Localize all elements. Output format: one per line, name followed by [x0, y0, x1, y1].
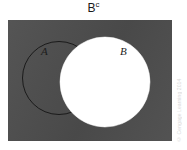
venn-diagram-figure: Bc A B © Cengage Learning 2014 — [0, 0, 187, 150]
set-label-b: B — [120, 46, 127, 57]
venn-circles-svg — [0, 0, 187, 150]
set-label-a: A — [41, 46, 48, 57]
copyright-credit: © Cengage Learning 2014 — [176, 56, 186, 142]
circle-set-b — [60, 37, 150, 127]
